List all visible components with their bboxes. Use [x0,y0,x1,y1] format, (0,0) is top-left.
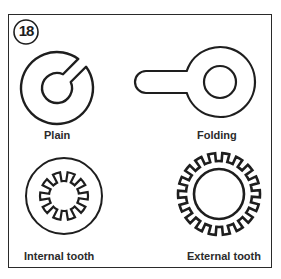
folding-washer-icon [135,47,255,117]
plain-washer-icon [21,52,93,124]
external-tooth-washer-icon [178,153,260,235]
label-folding: Folding [197,129,237,141]
figure-number-badge: 18 [14,22,38,39]
label-plain: Plain [44,129,70,141]
internal-tooth-washer-icon [26,158,102,234]
washer-illustrations [0,0,281,279]
label-internal-tooth: Internal tooth [24,250,94,262]
label-external-tooth: External tooth [187,250,261,262]
